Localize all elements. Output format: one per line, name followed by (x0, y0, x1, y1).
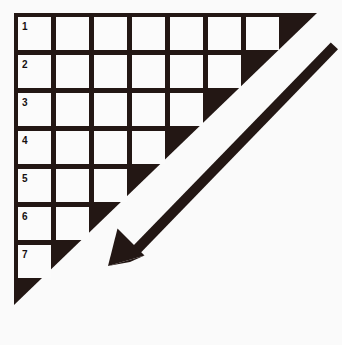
row-label-7: 7 (22, 250, 27, 260)
row-label-5: 5 (22, 174, 27, 184)
grid-cell[interactable] (208, 55, 241, 88)
grid-cell[interactable] (132, 17, 165, 50)
grid-cell[interactable] (94, 17, 127, 50)
grid-cell[interactable] (94, 55, 127, 88)
row-label-1: 1 (22, 22, 27, 32)
grid-cell[interactable] (132, 93, 165, 126)
row-label-3: 3 (22, 98, 27, 108)
grid-cell[interactable] (56, 93, 89, 126)
grid-cell[interactable] (170, 55, 203, 88)
grid-cell[interactable] (94, 131, 127, 164)
triangular-grid-diagram (0, 0, 342, 345)
grid-cell[interactable] (132, 55, 165, 88)
grid-cell[interactable] (170, 93, 203, 126)
grid-cell[interactable] (208, 17, 241, 50)
grid-cell[interactable] (56, 169, 89, 202)
grid-cell[interactable] (56, 131, 89, 164)
grid-cell[interactable] (56, 17, 89, 50)
grid-cell[interactable] (246, 17, 279, 50)
grid-cell[interactable] (56, 207, 89, 240)
grid-cell[interactable] (94, 93, 127, 126)
grid-cell[interactable] (132, 131, 165, 164)
grid-cell[interactable] (94, 169, 127, 202)
row-label-2: 2 (22, 60, 27, 70)
grid-cell[interactable] (170, 17, 203, 50)
figure-canvas: 1234567 (0, 0, 342, 345)
row-label-6: 6 (22, 212, 27, 222)
row-label-4: 4 (22, 136, 27, 146)
grid-cell[interactable] (56, 55, 89, 88)
